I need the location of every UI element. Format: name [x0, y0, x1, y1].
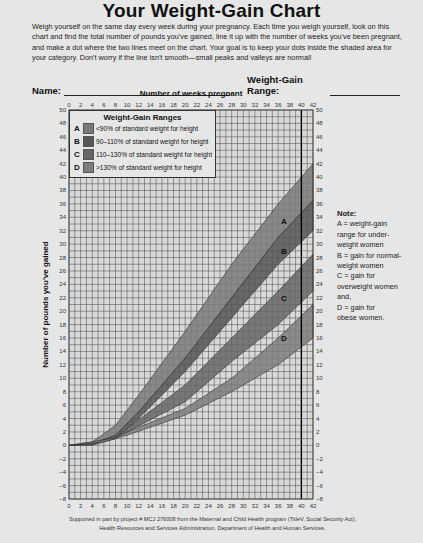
svg-text:22: 22 [316, 295, 323, 301]
svg-text:28: 28 [59, 255, 66, 261]
svg-text:6: 6 [316, 402, 320, 408]
svg-text:36: 36 [59, 201, 66, 207]
svg-text:32: 32 [252, 102, 259, 108]
svg-text:14: 14 [59, 348, 66, 354]
svg-text:24: 24 [316, 281, 323, 287]
svg-text:50: 50 [316, 107, 323, 113]
svg-text:D: D [281, 334, 287, 343]
svg-text:−6: −6 [316, 483, 324, 489]
svg-text:A: A [281, 217, 287, 226]
svg-text:12: 12 [135, 102, 142, 108]
svg-text:26: 26 [59, 268, 66, 274]
svg-text:12: 12 [316, 362, 323, 368]
svg-text:38: 38 [286, 503, 293, 509]
svg-text:−4: −4 [59, 469, 67, 475]
svg-text:32: 32 [252, 503, 259, 509]
svg-text:8: 8 [63, 389, 67, 395]
svg-text:36: 36 [275, 102, 282, 108]
svg-text:6: 6 [63, 402, 67, 408]
svg-text:0: 0 [63, 442, 67, 448]
footer: Supported in part by project # MCJ 27600… [40, 515, 385, 532]
legend-key: C [74, 150, 83, 159]
svg-text:14: 14 [147, 102, 154, 108]
svg-text:2: 2 [63, 429, 67, 435]
svg-text:−6: −6 [59, 483, 67, 489]
note: Note: A = weight-gain range for under- w… [337, 209, 417, 323]
note-line: weight women [337, 240, 417, 250]
svg-text:6: 6 [102, 102, 106, 108]
svg-text:20: 20 [316, 308, 323, 314]
svg-text:−8: −8 [316, 496, 324, 502]
legend-swatch [83, 123, 94, 134]
svg-text:34: 34 [59, 214, 66, 220]
legend-item-a: A <90% of standard weight for height [74, 122, 215, 135]
note-line: overweight women [337, 282, 417, 292]
legend-label: >130% of standard weight for height [96, 164, 202, 171]
svg-text:28: 28 [228, 503, 235, 509]
svg-text:40: 40 [59, 174, 66, 180]
footer-line: Health Resources and Services Administra… [40, 524, 385, 533]
svg-text:30: 30 [240, 102, 247, 108]
svg-text:42: 42 [316, 161, 323, 167]
svg-text:46: 46 [59, 134, 66, 140]
legend-label: 90–110% of standard weight for height [96, 138, 208, 145]
svg-text:14: 14 [316, 348, 323, 354]
svg-text:28: 28 [228, 102, 235, 108]
svg-text:18: 18 [170, 102, 177, 108]
svg-text:2: 2 [316, 429, 320, 435]
svg-text:26: 26 [217, 503, 224, 509]
svg-text:10: 10 [59, 375, 66, 381]
legend-title: Weight-Gain Ranges [70, 113, 215, 122]
chart-legend: Weight-Gain Ranges A <90% of standard we… [69, 110, 216, 178]
svg-text:36: 36 [316, 201, 323, 207]
svg-text:−8: −8 [59, 496, 67, 502]
note-line: weight women [337, 261, 417, 271]
svg-text:30: 30 [316, 241, 323, 247]
note-title: Note: [337, 209, 356, 218]
svg-text:14: 14 [147, 503, 154, 509]
svg-text:16: 16 [159, 102, 166, 108]
footer-line: Supported in part by project # MCJ 27600… [40, 515, 385, 524]
svg-text:28: 28 [316, 255, 323, 261]
svg-text:20: 20 [182, 102, 189, 108]
svg-text:16: 16 [159, 503, 166, 509]
svg-text:0: 0 [67, 102, 71, 108]
svg-text:30: 30 [59, 241, 66, 247]
svg-text:8: 8 [114, 102, 118, 108]
svg-text:38: 38 [59, 187, 66, 193]
svg-text:40: 40 [298, 503, 305, 509]
svg-text:0: 0 [316, 442, 320, 448]
svg-text:26: 26 [217, 102, 224, 108]
svg-text:16: 16 [316, 335, 323, 341]
svg-text:18: 18 [316, 322, 323, 328]
legend-key: A [74, 124, 83, 133]
legend-swatch [83, 149, 94, 160]
svg-text:24: 24 [205, 102, 212, 108]
svg-text:24: 24 [59, 281, 66, 287]
svg-text:C: C [281, 294, 287, 303]
svg-text:0: 0 [67, 503, 71, 509]
svg-text:Number of pounds you've gained: Number of pounds you've gained [41, 241, 50, 367]
svg-text:30: 30 [240, 503, 247, 509]
svg-text:32: 32 [59, 228, 66, 234]
svg-text:12: 12 [59, 362, 66, 368]
svg-text:4: 4 [316, 416, 320, 422]
svg-text:24: 24 [205, 503, 212, 509]
svg-text:48: 48 [316, 120, 323, 126]
legend-key: B [74, 137, 83, 146]
svg-text:36: 36 [275, 503, 282, 509]
svg-text:20: 20 [59, 308, 66, 314]
legend-item-c: C 110–130% of standard weight for height [74, 148, 215, 161]
svg-text:4: 4 [91, 102, 95, 108]
note-line: A = weight-gain [337, 219, 417, 229]
svg-text:50: 50 [59, 107, 66, 113]
svg-text:42: 42 [310, 503, 317, 509]
svg-text:44: 44 [59, 147, 66, 153]
svg-text:16: 16 [59, 335, 66, 341]
svg-text:38: 38 [316, 187, 323, 193]
svg-text:38: 38 [286, 102, 293, 108]
svg-text:10: 10 [316, 375, 323, 381]
note-line: B = gain for normal- [337, 251, 417, 261]
svg-text:4: 4 [63, 416, 67, 422]
svg-text:18: 18 [59, 322, 66, 328]
